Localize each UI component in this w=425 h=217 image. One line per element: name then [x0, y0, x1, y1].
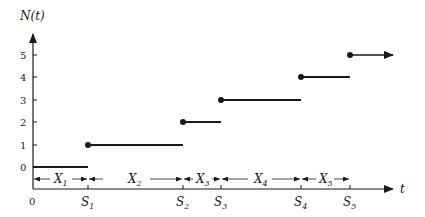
arrival-labels: S1 S2 S3 S4 S5 [81, 195, 356, 211]
counting-process-diagram: N(t) t 0 0 1 2 3 4 5 S1 S2 S3 S4 S5 [0, 0, 425, 217]
svg-text:S5: S5 [343, 195, 356, 211]
jump-dot-5 [347, 52, 353, 58]
step-function [33, 52, 393, 167]
jump-dot-3 [218, 97, 224, 103]
svg-text:X1: X1 [53, 172, 68, 188]
interarrival-labels: X1 X2 X3 X4 X5 [53, 172, 333, 188]
y-tick-5: 5 [20, 50, 26, 61]
svg-text:X4: X4 [253, 172, 268, 188]
svg-text:S4: S4 [294, 195, 307, 211]
jump-dot-4 [298, 74, 304, 80]
y-tick-3: 3 [20, 95, 26, 106]
jump-dot-2 [180, 119, 186, 125]
y-tick-0: 0 [20, 162, 26, 173]
y-tick-4: 4 [20, 72, 26, 83]
svg-text:X2: X2 [127, 172, 142, 188]
jump-dot-1 [85, 142, 91, 148]
y-ticks: 0 1 2 3 4 5 [20, 50, 37, 173]
svg-text:X3: X3 [195, 172, 210, 188]
origin-label: 0 [29, 196, 35, 207]
y-tick-2: 2 [20, 117, 26, 128]
x-axis-label: t [400, 182, 405, 196]
y-tick-1: 1 [20, 140, 26, 151]
y-axis-label: N(t) [19, 9, 45, 23]
svg-text:S1: S1 [81, 195, 94, 211]
svg-text:X5: X5 [318, 172, 333, 188]
svg-text:S2: S2 [176, 195, 189, 211]
svg-text:S3: S3 [214, 195, 227, 211]
